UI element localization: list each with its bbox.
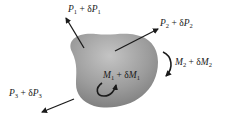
moment-arrow-m2 xyxy=(163,52,171,76)
label-p3: P3 + δP3 xyxy=(9,89,42,99)
force-arrow-p3 xyxy=(42,99,74,112)
label-p1: P1 + δP1 xyxy=(68,5,101,15)
label-m1: M1 + δM1 xyxy=(103,71,140,81)
diagram-canvas: P1 + δP1 P2 + δP2 M2 + δM2 M1 + δM1 P3 +… xyxy=(0,0,231,120)
label-p2: P2 + δP2 xyxy=(160,19,193,29)
label-m2: M2 + δM2 xyxy=(175,58,212,68)
